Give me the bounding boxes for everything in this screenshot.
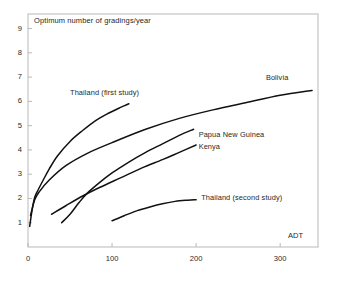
x-tick-label: 0 [13, 255, 43, 263]
y-tick-label: 9 [10, 25, 22, 33]
x-tick-label: 300 [265, 255, 295, 263]
chart-title: Optimum number of gradings/year [34, 17, 151, 25]
chart-plot-area [0, 0, 337, 283]
y-tick-label: 8 [10, 49, 22, 57]
series-label-papua-new-guinea: Papua New Guinea [199, 131, 265, 138]
y-tick-label: 6 [10, 97, 22, 105]
series-label-thailand-first-study: Thailand (first study) [70, 89, 139, 96]
series-label-kenya: Kenya [199, 143, 220, 150]
y-tick-label: 5 [10, 122, 22, 130]
x-tick-label: 100 [97, 255, 127, 263]
x-tick-label: 200 [181, 255, 211, 263]
x-axis-label: ADT [288, 232, 303, 240]
y-tick-label: 3 [10, 170, 22, 178]
y-tick-label: 2 [10, 194, 22, 202]
chart-figure: Optimum number of gradings/year ADT 1234… [0, 0, 337, 283]
series-label-thailand-second-study: Thailand (second study) [201, 194, 282, 201]
y-tick-label: 4 [10, 146, 22, 154]
series-label-bolivia: Bolivia [266, 74, 288, 81]
y-tick-label: 7 [10, 73, 22, 81]
y-tick-label: 1 [10, 219, 22, 227]
